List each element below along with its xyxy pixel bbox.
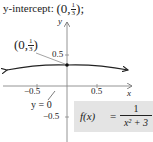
x-axis-label: x [127,88,131,98]
point-label-close: ) [34,37,38,52]
y-tick-label-pos: 0.5 [52,49,63,59]
function-box: f(x) = 1 x² + 3 [74,101,153,132]
point-label-open: (0, [14,37,28,52]
y-axis-label: y [58,16,62,26]
asymptote-label: y = 0 [31,99,52,110]
y-tick-label-neg: −0.5 [43,111,59,121]
function-denominator: x² + 3 [120,116,152,129]
x-tick-label-pos: 0.5 [91,86,102,96]
function-equals: = [110,110,116,122]
function-fraction: 1 x² + 3 [120,103,152,129]
y-intercept-point [65,63,69,67]
point-label: (0,13) [14,37,38,53]
function-name: f(x) [80,110,95,122]
function-numerator: 1 [120,103,152,116]
x-tick-label-neg: −0.5 [24,86,40,96]
